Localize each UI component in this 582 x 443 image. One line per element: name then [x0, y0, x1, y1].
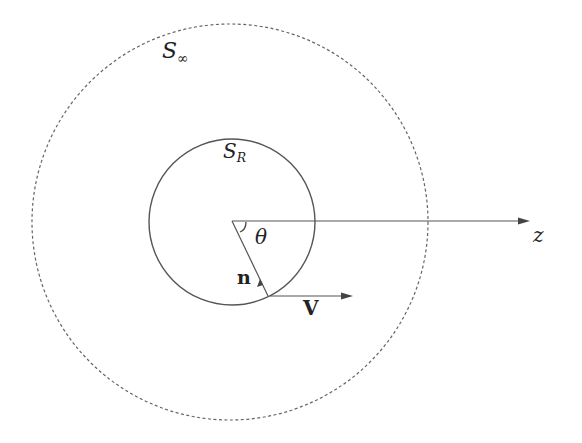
theta-label: θ	[255, 225, 267, 249]
outer-surface-label: S∞	[162, 38, 188, 66]
inner-surface-label: SR	[223, 139, 246, 165]
diagram-canvas	[0, 0, 582, 443]
velocity-label: V	[303, 296, 319, 320]
outer-surface-circle	[32, 24, 428, 420]
z-axis-arrowhead	[518, 218, 530, 225]
normal-vector-label: n	[237, 266, 251, 288]
velocity-arrowhead	[341, 293, 353, 300]
z-axis-label: z	[533, 223, 544, 247]
theta-angle-arc	[240, 222, 246, 232]
